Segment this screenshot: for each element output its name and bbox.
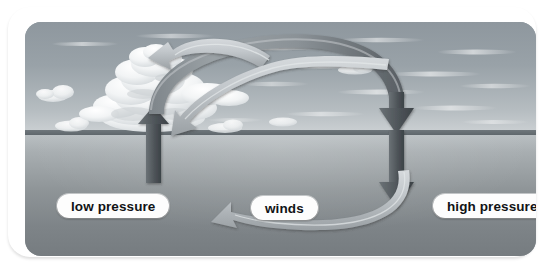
label-winds[interactable]: winds (251, 196, 318, 220)
label-high-pressure[interactable]: high pressure (433, 194, 536, 218)
label-low-pressure[interactable]: low pressure (57, 194, 169, 218)
diagram-frame: low pressure winds high pressure (8, 7, 536, 257)
weather-scene: low pressure winds high pressure (25, 22, 536, 256)
sky-background (25, 22, 536, 130)
diagram-root: low pressure winds high pressure (0, 0, 544, 267)
